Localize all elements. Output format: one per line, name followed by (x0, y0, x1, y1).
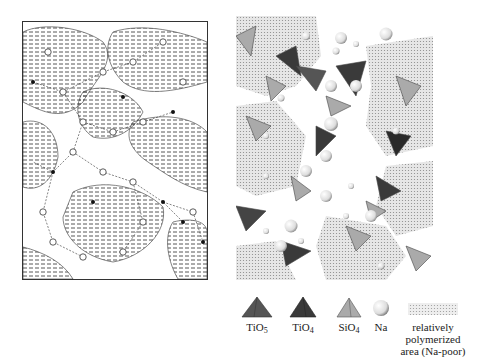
legend-label-sio4: SiO (338, 321, 355, 333)
legend: TiO5 TiO4 SiO4 Na relatively polymerized… (240, 295, 480, 351)
polyhedral-model-panel (236, 16, 433, 280)
tio4-tetrahedron-icon (286, 295, 320, 319)
legend-label-tio4: TiO (292, 321, 309, 333)
legend-polymerized-area: relatively polymerized area (Na-poor) (388, 295, 478, 357)
legend-label-polymerized: relatively polymerized (388, 321, 478, 345)
legend-label-na-poor: area (Na-poor) (388, 345, 478, 357)
legend-tio5: TiO5 (240, 295, 274, 337)
tio5-tetrahedron-icon (240, 295, 274, 319)
sio4-tetrahedron-icon (332, 295, 366, 319)
polymerized-area-swatch-icon (388, 295, 478, 319)
legend-tio4: TiO4 (286, 295, 320, 337)
legend-sio4: SiO4 (332, 295, 366, 337)
legend-label-tio5: TiO (246, 321, 263, 333)
polyhedral-diagram (236, 16, 433, 280)
network-model-panel (22, 21, 208, 280)
network-diagram (23, 22, 207, 279)
